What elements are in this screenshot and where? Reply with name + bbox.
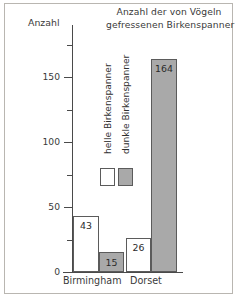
legend-swatch-dark: [118, 168, 133, 186]
y-tick-label-150: 150: [24, 71, 60, 82]
legend-swatch-light: [100, 168, 115, 186]
bar-birmingham-light[interactable]: 43: [73, 216, 99, 272]
x-category-label-dorset: Dorset: [130, 275, 162, 286]
y-tick-minor-125: [67, 110, 72, 111]
y-tick-major-100: [64, 142, 72, 143]
bar-value-birmingham-dark: 15: [100, 257, 123, 268]
y-tick-major-50: [64, 207, 72, 208]
y-tick-label-100: 100: [24, 136, 60, 147]
chart-title-line-1: Anzahl der von Vögeln: [106, 6, 232, 19]
chart-figure: Anzahl der von Vögeln gefressenen Birken…: [0, 0, 237, 307]
x-category-label-birmingham: Birmingham: [63, 275, 122, 286]
y-tick-label-50: 50: [24, 201, 60, 212]
y-tick-minor-75: [67, 175, 72, 176]
bar-value-birmingham-light: 43: [74, 220, 98, 231]
y-tick-major-150: [64, 77, 72, 78]
legend-label-dunkle: dunkle Birkenspanner: [121, 55, 131, 154]
y-tick-minor-25: [67, 240, 72, 241]
legend-entry-dunkle[interactable]: dunkle Birkenspanner: [117, 58, 135, 186]
chart-legend: helle Birkenspanner dunkle Birkenspanner: [99, 58, 139, 188]
bar-dorset-dark[interactable]: 164: [151, 59, 177, 272]
chart-title-line-2: gefressenen Birkenspanner: [106, 19, 232, 32]
bar-dorset-light[interactable]: 26: [126, 238, 151, 272]
y-tick-minor-175: [67, 45, 72, 46]
y-tick-labels: 0 50 100 150: [22, 0, 60, 307]
bar-value-dorset-light: 26: [127, 242, 150, 253]
legend-label-helle: helle Birkenspanner: [103, 63, 113, 154]
y-tick-label-0: 0: [24, 266, 60, 277]
y-tick-major-0: [64, 272, 72, 273]
bar-value-dorset-dark: 164: [152, 63, 176, 74]
bar-birmingham-dark[interactable]: 15: [99, 252, 124, 272]
chart-title: Anzahl der von Vögeln gefressenen Birken…: [106, 6, 232, 31]
legend-entry-helle[interactable]: helle Birkenspanner: [99, 58, 117, 186]
x-axis-line: [63, 272, 183, 273]
